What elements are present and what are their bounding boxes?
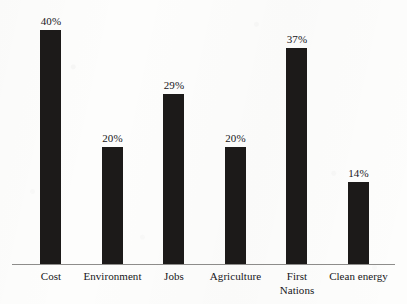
plot-area: 40% Cost 20% Environment 29% Jobs 20% Ag… bbox=[0, 0, 407, 304]
bar-value-label: 20% bbox=[205, 132, 267, 145]
bar-rect[interactable] bbox=[102, 147, 123, 264]
bar-value-label: 14% bbox=[328, 167, 390, 180]
bar-value-label: 37% bbox=[266, 33, 328, 46]
x-axis-baseline bbox=[12, 264, 395, 265]
bar-category-label: Clean energy bbox=[321, 270, 397, 284]
bar-value-label: 40% bbox=[20, 15, 82, 28]
bar-value-label: 20% bbox=[82, 132, 144, 145]
bar-rect[interactable] bbox=[286, 48, 307, 264]
bar-chart: 40% Cost 20% Environment 29% Jobs 20% Ag… bbox=[0, 0, 407, 304]
bar-rect[interactable] bbox=[40, 30, 61, 264]
bar-rect[interactable] bbox=[225, 147, 246, 264]
bar-rect[interactable] bbox=[348, 182, 369, 264]
bar-rect[interactable] bbox=[163, 94, 184, 264]
bar-value-label: 29% bbox=[143, 79, 205, 92]
